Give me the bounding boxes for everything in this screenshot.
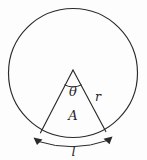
- circle-sector-diagram: θ r A l: [0, 0, 147, 160]
- angle-label: θ: [69, 84, 77, 99]
- arrow-head-right-icon: [104, 137, 113, 145]
- arc-length-label: l: [71, 144, 75, 159]
- arrow-head-left-icon: [34, 138, 43, 146]
- area-label: A: [67, 108, 77, 123]
- diagram-canvas: θ r A l: [0, 0, 147, 160]
- radius-label: r: [95, 89, 102, 104]
- sector-left-radius-line: [41, 70, 74, 133]
